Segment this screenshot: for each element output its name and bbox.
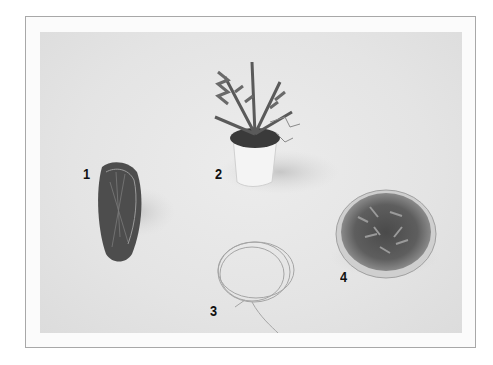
item-label-2: 2 xyxy=(215,165,222,182)
potted-plant xyxy=(215,62,340,194)
item-label-4: 4 xyxy=(340,268,347,285)
photograph xyxy=(40,32,462,333)
root-ball xyxy=(95,162,175,261)
twine-coil xyxy=(218,242,294,333)
item-label-3: 3 xyxy=(210,302,217,319)
moss-dish xyxy=(330,190,440,278)
photo-illustration xyxy=(40,32,462,333)
item-label-1: 1 xyxy=(83,165,90,182)
